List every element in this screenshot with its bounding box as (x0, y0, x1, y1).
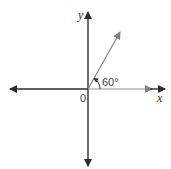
origin-label: 0 (80, 92, 86, 104)
x-axis-label: x (156, 91, 163, 105)
angle-label: 60° (102, 76, 119, 88)
angle-arc (94, 79, 100, 89)
y-axis-label: y (77, 8, 84, 22)
coordinate-diagram: y x 0 60° (0, 0, 171, 169)
